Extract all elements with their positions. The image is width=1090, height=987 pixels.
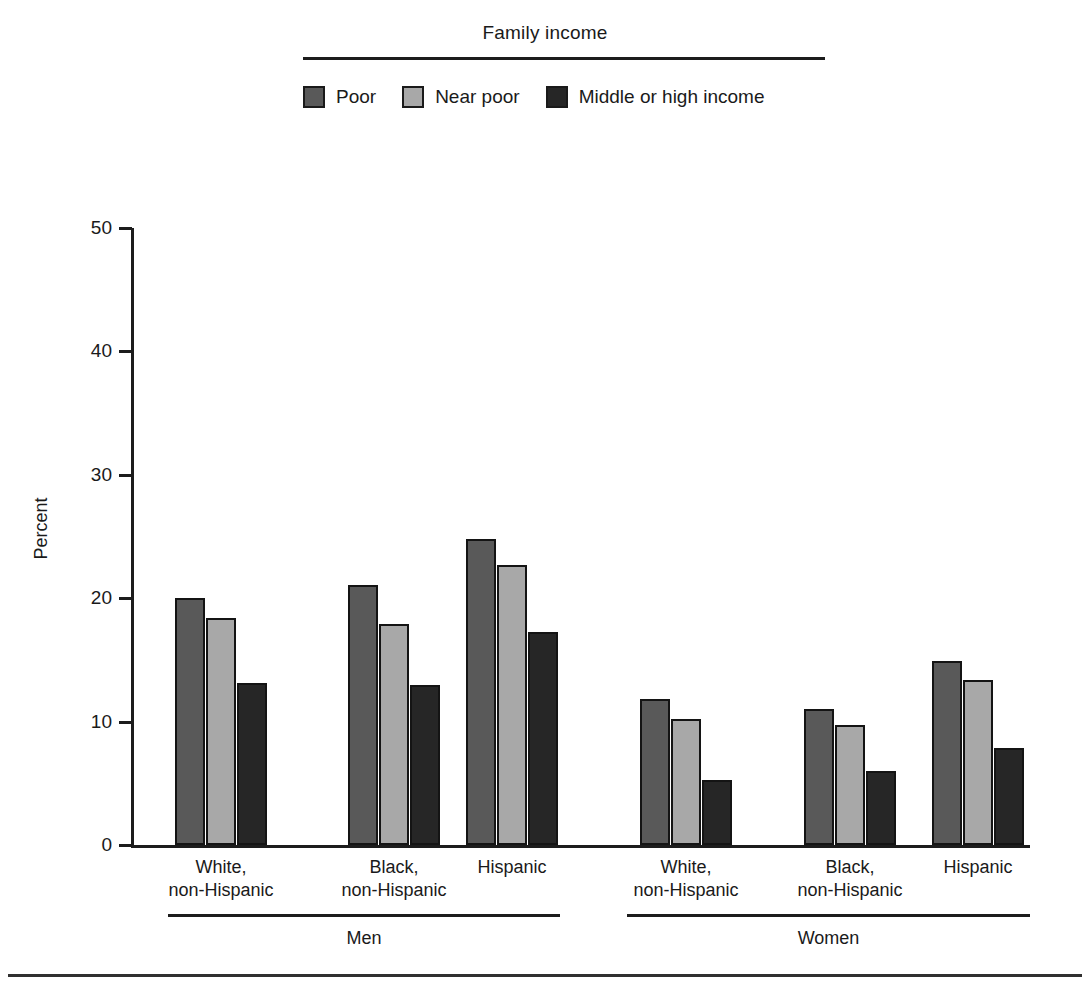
bar — [348, 585, 378, 845]
y-axis-tick — [119, 474, 132, 477]
bar — [640, 699, 670, 845]
category-label-line1: Hispanic — [888, 856, 1068, 879]
bar — [804, 709, 834, 845]
bar — [528, 632, 558, 845]
bar — [410, 685, 440, 845]
y-axis-tick-label: 30 — [52, 464, 112, 486]
x-axis-category-label: Hispanic — [888, 856, 1068, 879]
category-label-line2: non-Hispanic — [131, 879, 311, 902]
bar — [671, 719, 701, 845]
chart-figure: Family income PoorNear poorMiddle or hig… — [0, 0, 1090, 987]
section-label: Women — [729, 928, 929, 949]
y-axis-tick-label: 40 — [52, 340, 112, 362]
category-label-line2: non-Hispanic — [760, 879, 940, 902]
category-label-line2: non-Hispanic — [304, 879, 484, 902]
category-label-line1: White, — [596, 856, 776, 879]
y-axis-tick — [119, 350, 132, 353]
x-axis-line — [131, 845, 1030, 848]
category-label-line1: White, — [131, 856, 311, 879]
bar — [497, 565, 527, 845]
bar — [175, 598, 205, 845]
x-axis-category-label: Hispanic — [422, 856, 602, 879]
category-label-line2: non-Hispanic — [596, 879, 776, 902]
y-axis-tick — [119, 597, 132, 600]
y-axis-tick — [119, 227, 132, 230]
section-divider — [168, 914, 560, 917]
bar — [932, 661, 962, 845]
footer-divider — [8, 974, 1082, 977]
bar — [206, 618, 236, 845]
bar — [466, 539, 496, 845]
y-axis-line — [131, 228, 134, 846]
y-axis-tick-label: 0 — [52, 834, 112, 856]
y-axis-tick — [119, 844, 132, 847]
section-divider — [627, 914, 1030, 917]
bar — [835, 725, 865, 845]
x-axis-category-label: White,non-Hispanic — [596, 856, 776, 902]
category-label-line1: Hispanic — [422, 856, 602, 879]
plot-area: Percent 01020304050 White,non-HispanicBl… — [0, 0, 1090, 987]
y-axis-tick-label: 10 — [52, 711, 112, 733]
bar — [702, 780, 732, 845]
x-axis-category-label: White,non-Hispanic — [131, 856, 311, 902]
y-axis-tick-label: 20 — [52, 587, 112, 609]
section-label: Men — [264, 928, 464, 949]
y-axis-tick — [119, 721, 132, 724]
bar — [963, 680, 993, 845]
bar — [379, 624, 409, 845]
bar — [237, 683, 267, 845]
bar — [866, 771, 896, 845]
bar — [994, 748, 1024, 845]
y-axis-tick-label: 50 — [52, 217, 112, 239]
y-axis-title: Percent — [31, 469, 52, 589]
